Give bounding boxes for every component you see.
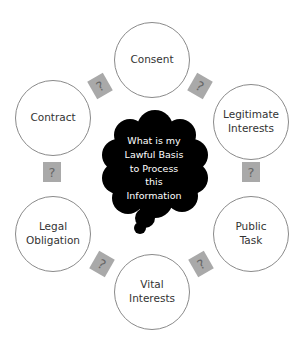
node-label: Consent: [130, 53, 173, 67]
center-line: Information: [112, 189, 196, 203]
node-label: Interests: [129, 292, 175, 306]
node-label: Public: [235, 220, 266, 234]
node-contract: Contract: [15, 80, 91, 156]
center-line: this: [112, 175, 196, 189]
center-question: What is my Lawful Basis to Process this …: [112, 134, 196, 203]
node-label: Task: [235, 234, 266, 248]
node-label: Contract: [30, 111, 75, 125]
node-label: Vital: [129, 278, 175, 292]
node-vital-interests: VitalInterests: [114, 254, 190, 330]
node-public-task: PublicTask: [213, 196, 289, 272]
node-legitimate-interests: LegitimateInterests: [213, 84, 289, 160]
node-label: Legitimate: [223, 108, 279, 122]
node-label: Interests: [223, 122, 279, 136]
question-mark-icon: ?: [242, 162, 260, 182]
node-legal-obligation: LegalObligation: [15, 196, 91, 272]
node-label: Obligation: [26, 234, 80, 248]
node-label: Legal: [26, 220, 80, 234]
node-consent: Consent: [114, 22, 190, 98]
center-line: Lawful Basis: [112, 148, 196, 162]
question-mark-icon: ?: [43, 162, 61, 182]
center-line: What is my: [112, 134, 196, 148]
center-line: to Process: [112, 162, 196, 176]
